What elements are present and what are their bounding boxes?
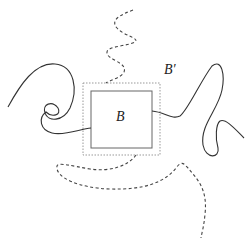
- left-solid-curve: [8, 64, 91, 134]
- diagram-canvas: [0, 0, 252, 243]
- outer-box-label: B′: [164, 62, 176, 78]
- bottom-dashed-curve: [57, 155, 206, 238]
- inner-box-label: B: [116, 109, 125, 125]
- top-dashed-curve: [106, 10, 136, 83]
